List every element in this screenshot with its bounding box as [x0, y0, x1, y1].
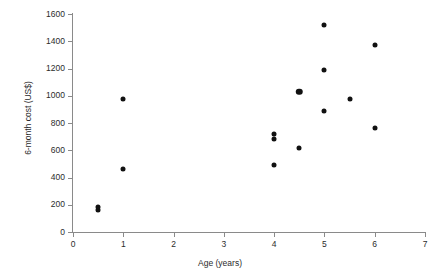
- y-tick-mark: [68, 69, 72, 70]
- data-point: [296, 88, 303, 95]
- y-tick-mark: [68, 150, 72, 151]
- y-tick-label: 1200: [31, 64, 65, 73]
- data-point: [322, 67, 327, 72]
- data-point: [347, 96, 352, 101]
- y-tick-mark: [68, 41, 72, 42]
- x-axis-title: Age (years): [0, 258, 440, 268]
- data-point: [121, 97, 126, 102]
- y-tick-label: 0: [31, 228, 65, 237]
- x-tick-mark: [324, 233, 325, 237]
- scatter-chart-figure: 02004006008001000120014001600 01234567 A…: [0, 0, 440, 279]
- x-tick-label: 4: [264, 240, 284, 249]
- data-point: [372, 43, 377, 48]
- data-point: [322, 22, 327, 27]
- x-tick-mark: [123, 233, 124, 237]
- y-tick-mark: [68, 178, 72, 179]
- x-tick-label: 5: [314, 240, 334, 249]
- data-point: [272, 137, 277, 142]
- y-tick-mark: [68, 14, 72, 15]
- x-tick-mark: [73, 233, 74, 237]
- x-tick-label: 3: [214, 240, 234, 249]
- data-point: [96, 205, 101, 210]
- x-tick-mark: [425, 233, 426, 237]
- x-tick-mark: [224, 233, 225, 237]
- y-tick-mark: [68, 232, 72, 233]
- x-tick-label: 0: [63, 240, 83, 249]
- data-point: [322, 109, 327, 114]
- y-tick-label: 600: [31, 146, 65, 155]
- y-tick-mark: [68, 205, 72, 206]
- x-tick-mark: [274, 233, 275, 237]
- x-tick-label: 6: [365, 240, 385, 249]
- x-tick-mark: [174, 233, 175, 237]
- y-tick-label: 400: [31, 173, 65, 182]
- y-axis-title: 6-month cost (US$): [23, 48, 33, 188]
- y-tick-label: 200: [31, 200, 65, 209]
- y-tick-mark: [68, 123, 72, 124]
- x-tick-label: 2: [164, 240, 184, 249]
- x-tick-label: 7: [415, 240, 435, 249]
- y-tick-label: 800: [31, 119, 65, 128]
- y-tick-label: 1600: [31, 10, 65, 19]
- data-point: [272, 132, 277, 137]
- y-tick-mark: [68, 96, 72, 97]
- data-point: [372, 125, 377, 130]
- y-tick-label: 1000: [31, 91, 65, 100]
- x-tick-label: 1: [113, 240, 133, 249]
- x-tick-mark: [375, 233, 376, 237]
- data-point: [272, 163, 277, 168]
- data-point: [297, 145, 302, 150]
- data-point: [121, 166, 126, 171]
- y-tick-label: 1400: [31, 37, 65, 46]
